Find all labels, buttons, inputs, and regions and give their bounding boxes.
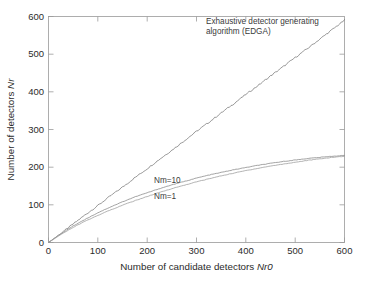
edga-annotation-line1: Exhaustive detector generating xyxy=(206,17,319,26)
y-tick-label: 0 xyxy=(39,237,44,248)
x-tick-label: 0 xyxy=(46,245,51,256)
x-tick-label: 200 xyxy=(139,245,155,256)
y-tick-labels: 0 100 200 300 400 500 600 xyxy=(28,11,44,248)
y-tick-label: 300 xyxy=(28,124,44,135)
y-tick-label: 600 xyxy=(28,11,44,22)
y-tick-label: 500 xyxy=(28,48,44,59)
x-axis-title-plain: Number of candidate detectors xyxy=(120,261,257,272)
x-tick-label: 500 xyxy=(287,245,303,256)
chart-canvas: 0 100 200 300 400 500 600 0 100 200 300 … xyxy=(0,0,365,281)
data-curves xyxy=(49,20,345,243)
nm10-series-label: Nm=10 xyxy=(154,176,181,185)
y-tick-label: 200 xyxy=(28,161,44,172)
series-line-edga xyxy=(49,20,345,243)
series-line-nm10 xyxy=(49,155,345,242)
x-axis-ticks xyxy=(49,17,345,243)
chart-annotations: Exhaustive detector generating algorithm… xyxy=(154,17,319,201)
nm1-series-label: Nm=1 xyxy=(154,192,177,201)
x-tick-label: 600 xyxy=(337,245,353,256)
series-line-nm1 xyxy=(49,156,345,242)
edga-annotation-line2: algorithm (EDGA) xyxy=(206,27,271,36)
y-axis-ticks xyxy=(49,17,345,243)
y-axis-title-italic: Nr xyxy=(5,78,16,89)
plot-frame xyxy=(49,17,345,243)
x-tick-label: 100 xyxy=(90,245,106,256)
y-axis-title-plain: Number of detectors xyxy=(5,89,16,180)
x-tick-label: 400 xyxy=(238,245,254,256)
x-tick-labels: 0 100 200 300 400 500 600 xyxy=(46,245,353,256)
y-tick-label: 100 xyxy=(28,199,44,210)
y-axis-title: Number of detectors Nr xyxy=(5,78,16,181)
x-axis-title-italic: Nr0 xyxy=(257,261,273,272)
x-axis-title: Number of candidate detectors Nr0 xyxy=(120,261,273,272)
x-tick-label: 300 xyxy=(189,245,205,256)
figure-container: 0 100 200 300 400 500 600 0 100 200 300 … xyxy=(0,0,365,281)
y-tick-label: 400 xyxy=(28,86,44,97)
